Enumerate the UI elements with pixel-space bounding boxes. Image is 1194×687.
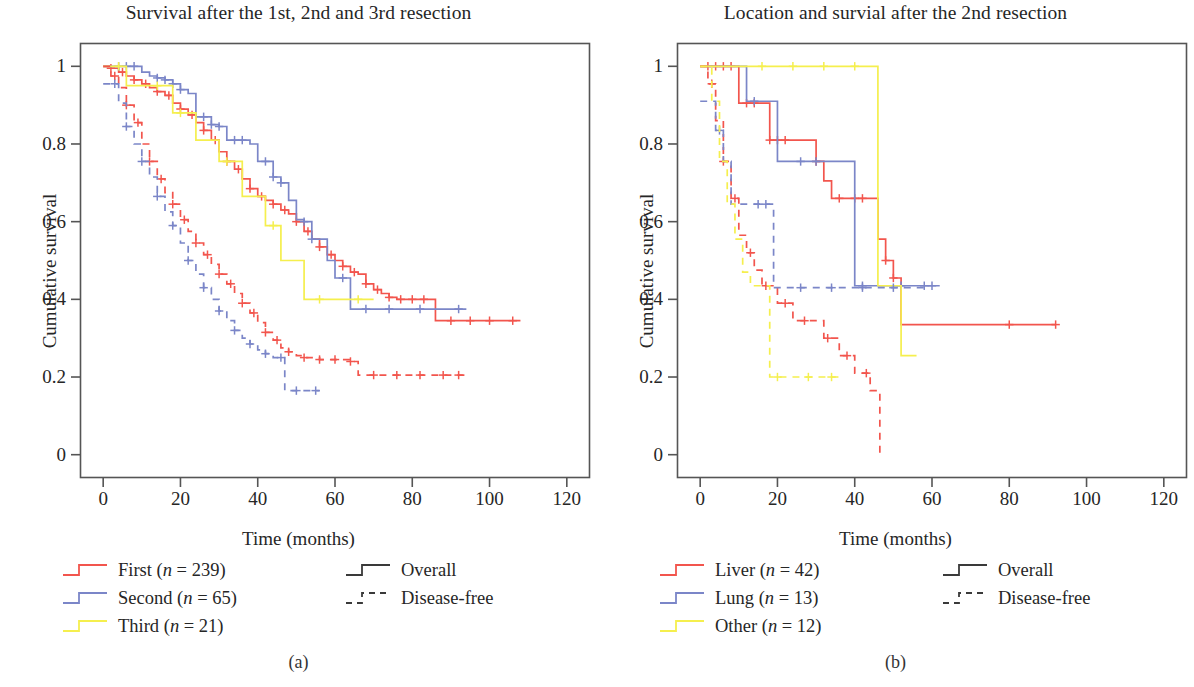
legend-item-group[interactable]: Lung (n = 13) bbox=[659, 584, 822, 612]
legend-item-style[interactable]: Disease-free bbox=[345, 584, 493, 612]
legend-item-group[interactable]: Other (n = 12) bbox=[659, 612, 822, 640]
legend-key-path bbox=[660, 621, 704, 631]
legend-item-label: Overall bbox=[998, 560, 1053, 581]
legend-key bbox=[345, 562, 391, 578]
x-tick-label: 60 bbox=[923, 488, 942, 510]
y-tick-label: 0.4 bbox=[639, 288, 663, 310]
y-tick-label: 0.6 bbox=[639, 211, 663, 233]
legend-key-step-icon bbox=[659, 590, 705, 606]
legend-key-path bbox=[63, 621, 107, 631]
legend-key-path bbox=[660, 593, 704, 603]
legend-item-label: Liver (n = 42) bbox=[715, 560, 819, 581]
panel-b-x-axis-label: Time (months) bbox=[597, 528, 1194, 550]
panel-a-legend-groups: First (n = 239)Second (n = 65)Third (n =… bbox=[62, 556, 237, 640]
legend-item-label: Overall bbox=[401, 560, 456, 581]
y-tick-label: 0.2 bbox=[639, 366, 663, 388]
legend-key-step-icon bbox=[62, 590, 108, 606]
x-tick-label: 100 bbox=[1072, 488, 1101, 510]
y-tick-label: 0.8 bbox=[42, 133, 66, 155]
legend-key-dashed-icon bbox=[345, 590, 391, 606]
y-tick-label: 1 bbox=[57, 55, 67, 77]
panel-b: Location and survial after the 2nd resec… bbox=[597, 0, 1194, 687]
legend-key-step-icon bbox=[659, 618, 705, 634]
legend-item-label: Disease-free bbox=[401, 588, 493, 609]
panel-a-y-ticks: 10.80.60.40.20 bbox=[0, 43, 66, 478]
panel-b-title: Location and survial after the 2nd resec… bbox=[597, 2, 1194, 24]
legend-key bbox=[942, 562, 988, 578]
legend-key-step-icon bbox=[345, 562, 391, 578]
x-tick-label: 40 bbox=[248, 488, 267, 510]
legend-key-step-icon bbox=[62, 618, 108, 634]
panel-b-subfigure-label: (b) bbox=[597, 652, 1194, 673]
panel-a-title: Survival after the 1st, 2nd and 3rd rese… bbox=[0, 2, 597, 24]
legend-item-label: Second (n = 65) bbox=[118, 588, 237, 609]
x-tick-label: 100 bbox=[475, 488, 504, 510]
panel-a-x-axis-label: Time (months) bbox=[0, 528, 597, 550]
y-tick-label: 1 bbox=[654, 55, 664, 77]
legend-item-style[interactable]: Disease-free bbox=[942, 584, 1090, 612]
panel-b-y-ticks: 10.80.60.40.20 bbox=[597, 43, 663, 478]
legend-key bbox=[659, 618, 705, 634]
panel-a-subfigure-label: (a) bbox=[0, 652, 597, 673]
panel-b-chart-svg bbox=[677, 43, 1187, 478]
panel-b-legend-styles: OverallDisease-free bbox=[942, 556, 1090, 612]
legend-key-step-icon bbox=[62, 562, 108, 578]
legend-key bbox=[345, 590, 391, 606]
legend-key-path bbox=[943, 565, 987, 575]
y-tick-label: 0 bbox=[654, 444, 664, 466]
legend-key-path bbox=[63, 565, 107, 575]
legend-key bbox=[62, 590, 108, 606]
panel-b-legend-groups: Liver (n = 42)Lung (n = 13)Other (n = 12… bbox=[659, 556, 822, 640]
x-tick-label: 60 bbox=[326, 488, 345, 510]
panel-b-x-ticks: 020406080100120 bbox=[677, 488, 1187, 514]
panel-b-plot-area bbox=[677, 43, 1187, 478]
legend-key-step-icon bbox=[659, 562, 705, 578]
panel-a: Survival after the 1st, 2nd and 3rd rese… bbox=[0, 0, 597, 687]
legend-item-style[interactable]: Overall bbox=[345, 556, 493, 584]
legend-item-label: Lung (n = 13) bbox=[715, 588, 818, 609]
legend-item-label: Disease-free bbox=[998, 588, 1090, 609]
y-tick-label: 0.8 bbox=[639, 133, 663, 155]
legend-key-path bbox=[660, 565, 704, 575]
panel-a-x-ticks: 020406080100120 bbox=[80, 488, 590, 514]
panel-a-legend-styles: OverallDisease-free bbox=[345, 556, 493, 612]
legend-key bbox=[942, 590, 988, 606]
x-tick-label: 0 bbox=[98, 488, 108, 510]
legend-key-path bbox=[63, 593, 107, 603]
legend-item-group[interactable]: Liver (n = 42) bbox=[659, 556, 822, 584]
x-tick-label: 120 bbox=[1150, 488, 1179, 510]
legend-key-path bbox=[943, 593, 987, 603]
legend-key bbox=[62, 562, 108, 578]
y-tick-label: 0.4 bbox=[42, 288, 66, 310]
x-tick-label: 120 bbox=[553, 488, 582, 510]
legend-item-group[interactable]: Third (n = 21) bbox=[62, 612, 237, 640]
x-tick-label: 40 bbox=[845, 488, 864, 510]
panel-a-legend: First (n = 239)Second (n = 65)Third (n =… bbox=[0, 556, 597, 640]
x-tick-label: 20 bbox=[171, 488, 190, 510]
x-tick-label: 80 bbox=[403, 488, 422, 510]
x-tick-label: 20 bbox=[768, 488, 787, 510]
legend-key-path bbox=[346, 565, 390, 575]
legend-item-style[interactable]: Overall bbox=[942, 556, 1090, 584]
y-tick-label: 0.6 bbox=[42, 211, 66, 233]
legend-key bbox=[659, 562, 705, 578]
panel-b-ylabel-host: Cumulative survival bbox=[619, 0, 620, 1]
legend-key-path bbox=[346, 593, 390, 603]
y-tick-label: 0.2 bbox=[42, 366, 66, 388]
legend-key bbox=[62, 618, 108, 634]
y-tick-label: 0 bbox=[57, 444, 67, 466]
x-tick-label: 80 bbox=[1000, 488, 1019, 510]
x-tick-label: 0 bbox=[695, 488, 705, 510]
panel-b-legend: Liver (n = 42)Lung (n = 13)Other (n = 12… bbox=[597, 556, 1194, 640]
legend-item-label: Other (n = 12) bbox=[715, 616, 822, 637]
legend-item-group[interactable]: Second (n = 65) bbox=[62, 584, 237, 612]
legend-item-group[interactable]: First (n = 239) bbox=[62, 556, 237, 584]
legend-key-step-icon bbox=[942, 562, 988, 578]
legend-key bbox=[659, 590, 705, 606]
figure-root: Survival after the 1st, 2nd and 3rd rese… bbox=[0, 0, 1194, 687]
legend-item-label: Third (n = 21) bbox=[118, 616, 224, 637]
legend-key-dashed-icon bbox=[942, 590, 988, 606]
panel-a-chart-svg bbox=[80, 43, 590, 478]
panel-a-ylabel-host: Cumulative survival bbox=[22, 0, 23, 1]
legend-item-label: First (n = 239) bbox=[118, 560, 226, 581]
